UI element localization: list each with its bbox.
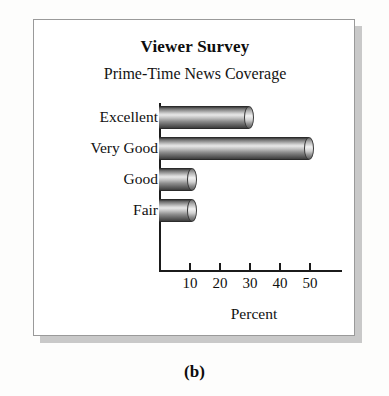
tick-label-50: 50 [295,275,325,292]
value-axis-title: Percent [159,305,349,323]
figure-caption: (b) [0,362,389,382]
bar-fair [159,199,192,222]
tick-label-40: 40 [265,275,295,292]
tick-label-20: 20 [205,275,235,292]
figure-page: Viewer Survey Prime-Time News Coverage E… [0,0,389,396]
tick-50 [309,263,311,271]
bar-very-good [159,137,309,160]
category-label-good: Good [38,170,158,188]
bar-excellent [159,106,249,129]
tick-30 [249,263,251,271]
tick-label-30: 30 [235,275,265,292]
chart-frame: Viewer Survey Prime-Time News Coverage E… [33,19,355,336]
plot-area: ExcellentVery GoodGoodFair 1020304050 Pe… [34,20,356,337]
category-label-excellent: Excellent [38,108,158,126]
bar-good [159,168,192,191]
tick-10 [189,263,191,271]
category-label-very-good: Very Good [38,139,158,157]
tick-label-10: 10 [175,275,205,292]
tick-40 [279,263,281,271]
category-label-fair: Fair [38,201,158,219]
tick-20 [219,263,221,271]
